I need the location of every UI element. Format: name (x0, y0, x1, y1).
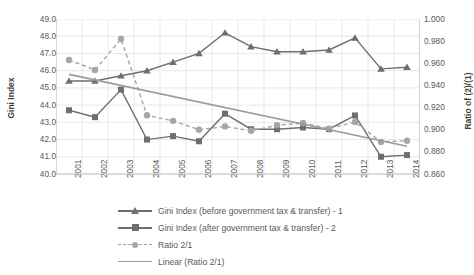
data-point-circle (222, 123, 228, 129)
data-point-circle (274, 122, 280, 128)
data-point-square (170, 133, 176, 139)
data-point-circle (248, 128, 254, 134)
legend-item-gini-before: Gini Index (before government tax & tran… (118, 202, 418, 219)
data-point-square (352, 112, 358, 118)
legend-swatch-line-icon (118, 256, 152, 267)
data-point-triangle (221, 29, 229, 35)
chart-legend: Gini Index (before government tax & tran… (118, 202, 418, 270)
data-point-circle (92, 67, 98, 73)
data-point-circle (170, 118, 176, 124)
legend-label: Ratio 2/1 (158, 240, 192, 250)
gini-index-chart: Gini Index Ratio of (2)/(1) 49.048.047.0… (0, 0, 474, 275)
data-point-square (92, 114, 98, 120)
legend-swatch-triangle-icon (118, 205, 152, 216)
legend-swatch-square-icon (118, 222, 152, 233)
legend-swatch-dashed-circle-icon (118, 239, 152, 250)
data-point-circle (352, 119, 358, 125)
data-point-square (378, 154, 384, 160)
legend-label: Gini Index (after government tax & trans… (158, 223, 336, 233)
data-point-circle (66, 57, 72, 63)
legend-item-ratio: Ratio 2/1 (118, 236, 418, 253)
data-point-circle (196, 127, 202, 133)
legend-item-linear-trend: Linear (Ratio 2/1) (118, 253, 418, 270)
data-point-circle (118, 36, 124, 42)
data-point-triangle (247, 43, 255, 49)
data-point-square (144, 137, 150, 143)
data-point-circle (404, 138, 410, 144)
plot-area (56, 19, 420, 174)
chart-svg (56, 19, 420, 175)
data-point-square (222, 111, 228, 117)
data-point-triangle (351, 34, 359, 40)
data-point-circle (144, 112, 150, 118)
legend-label: Gini Index (before government tax & tran… (158, 206, 343, 216)
data-point-square (196, 138, 202, 144)
data-point-square (404, 152, 410, 158)
legend-item-gini-after: Gini Index (after government tax & trans… (118, 219, 418, 236)
data-point-square (66, 107, 72, 113)
legend-label: Linear (Ratio 2/1) (158, 257, 224, 267)
data-point-square (118, 87, 124, 93)
